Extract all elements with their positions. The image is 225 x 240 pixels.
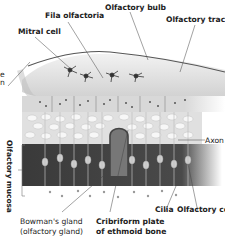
label-cribriform-line1: Cribriform plate — [96, 217, 164, 226]
label-fila-olfactoria: Fila olfactoria — [45, 11, 104, 20]
label-mitral-cell: Mitral cell — [18, 27, 61, 36]
label-olfactory-mucosa: Olfactory mucosa — [5, 140, 14, 213]
label-bowmans-gland-line2: (olfactory gland) — [20, 227, 83, 236]
label-axon: Axon — [205, 136, 224, 145]
bowmans-gland-shape — [110, 129, 128, 177]
bone-layer — [22, 96, 225, 112]
label-cut-left-2: n — [0, 78, 5, 87]
label-cilia: Cilia — [155, 205, 174, 214]
label-olfactory-bulb: Olfactory bulb — [105, 3, 166, 12]
olfactory-bulb-shape — [22, 54, 225, 100]
label-cribriform-line2: of ethmoid bone — [96, 227, 166, 236]
label-olfactory-cell: Olfactory cell — [177, 205, 225, 214]
anatomy-illustration — [0, 0, 225, 240]
olfactory-diagram: Fila olfactoria Olfactory bulb Olfactory… — [0, 0, 225, 240]
label-olfactory-tract: Olfactory tract — [166, 15, 225, 24]
label-bowmans-gland-line1: Bowman's gland — [20, 217, 83, 226]
